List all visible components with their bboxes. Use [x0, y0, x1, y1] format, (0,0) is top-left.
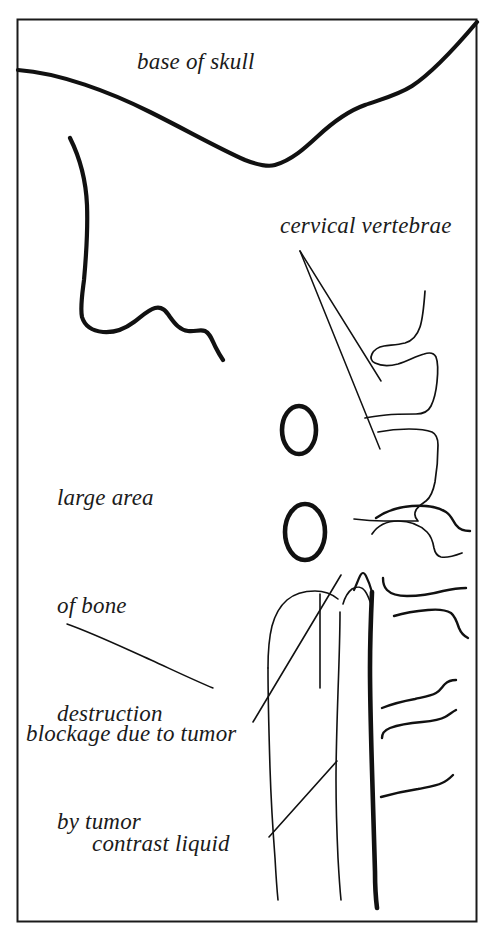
label-cervical-vertebrae: cervical vertebrae — [280, 214, 452, 237]
label-bone-destruction-line-1: large area — [57, 480, 163, 516]
label-blockage-due-to-tumor: blockage due to tumor — [26, 722, 237, 745]
label-bone-destruction-line-2: of bone — [57, 588, 163, 624]
figure-canvas: base of skull cervical vertebrae large a… — [0, 0, 492, 933]
label-base-of-skull: base of skull — [137, 50, 255, 73]
label-contrast-liquid: contrast liquid — [92, 832, 230, 855]
